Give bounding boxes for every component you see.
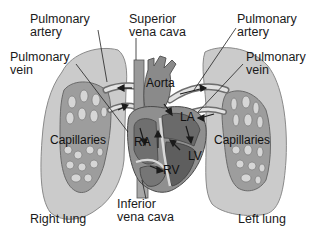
label-line: vein bbox=[246, 64, 306, 77]
heart-lung-circulation-diagram: Pulmonary artery Pulmonary vein Superior… bbox=[0, 0, 321, 233]
label-left-atrium: LA bbox=[180, 111, 195, 124]
label-capillaries-left: Capillaries bbox=[50, 134, 106, 147]
label-line: artery bbox=[30, 26, 90, 39]
label-pulmonary-vein-left: Pulmonary vein bbox=[10, 51, 70, 77]
label-line: vena cava bbox=[129, 26, 186, 39]
label-capillaries-right: Capillaries bbox=[214, 134, 270, 147]
label-left-ventricle: LV bbox=[188, 150, 202, 163]
label-pulmonary-vein-right: Pulmonary vein bbox=[246, 51, 306, 77]
label-pulmonary-artery-left: Pulmonary artery bbox=[30, 13, 90, 39]
label-pulmonary-artery-right: Pulmonary artery bbox=[237, 13, 297, 39]
label-line: vena cava bbox=[117, 211, 174, 224]
label-line: artery bbox=[237, 26, 297, 39]
label-right-ventricle: RV bbox=[163, 164, 179, 177]
label-superior-vena-cava: Superior vena cava bbox=[129, 13, 186, 39]
label-right-lung: Right lung bbox=[30, 213, 86, 226]
label-right-atrium: RA bbox=[134, 136, 151, 149]
label-line: vein bbox=[10, 64, 70, 77]
label-aorta: Aorta bbox=[146, 77, 175, 90]
label-left-lung: Left lung bbox=[238, 213, 286, 226]
label-inferior-vena-cava: Inferior vena cava bbox=[117, 198, 174, 224]
